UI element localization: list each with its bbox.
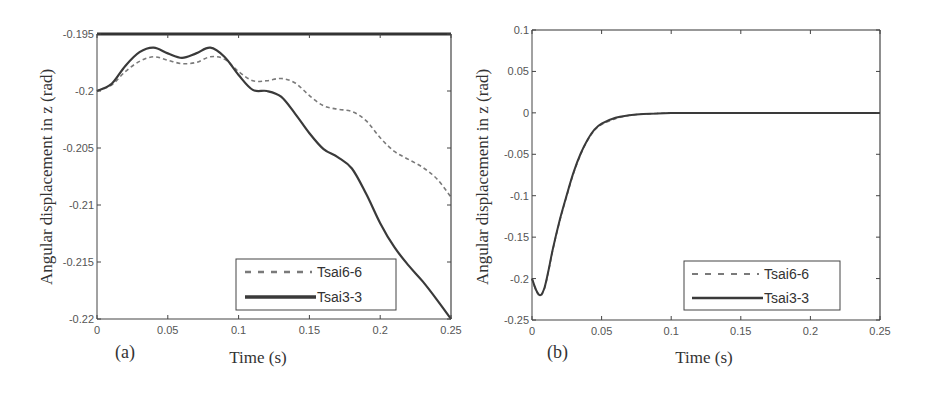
legend-b: Tsai6-6 Tsai3-3 (684, 261, 840, 310)
x-tick-label: 0.25 (869, 325, 890, 337)
y-tick-label: -0.215 (63, 256, 94, 268)
y-tick-label: -0.1 (510, 190, 529, 202)
legend-label-tsai33: Tsai3-3 (317, 289, 362, 305)
legend-a: Tsai6-6 Tsai3-3 (236, 259, 396, 310)
x-tick-label: 0.1 (231, 324, 246, 336)
figure: 00.050.10.150.20.25-0.195-0.2-0.205-0.21… (0, 0, 931, 393)
legend-label-tsai66: Tsai6-6 (317, 264, 362, 280)
x-tick-label: 0 (94, 324, 100, 336)
y-tick-label: -0.21 (69, 199, 94, 211)
chart-panel-a: 00.050.10.150.20.25-0.195-0.2-0.205-0.21… (37, 28, 462, 367)
panel-label-b: (b) (547, 342, 568, 363)
y-tick-label: -0.15 (504, 231, 529, 243)
x-tick-label: 0.2 (373, 324, 388, 336)
y-tick-label: -0.22 (69, 313, 94, 325)
x-tick-label: 0.1 (664, 325, 679, 337)
legend-label-tsai33: Tsai3-3 (764, 290, 809, 306)
y-tick-label: 0.1 (514, 24, 529, 36)
panel-label-a: (a) (115, 342, 135, 363)
chart-panel-b: 00.050.10.150.20.250.10.050-0.05-0.1-0.1… (473, 24, 891, 367)
x-tick-label: 0.15 (299, 324, 320, 336)
x-tick-label: 0.15 (730, 325, 751, 337)
x-tick-label: 0.05 (157, 324, 178, 336)
y-tick-label: -0.2 (510, 273, 529, 285)
y-axis-title-b: Angular displacement in z (rad) (473, 69, 492, 285)
y-tick-label: -0.205 (63, 142, 94, 154)
y-tick-label: -0.05 (504, 148, 529, 160)
y-axis-title-a: Angular displacement in z (rad) (37, 69, 56, 285)
x-axis-title-a: Time (s) (229, 348, 286, 367)
x-tick-label: 0.25 (440, 324, 461, 336)
y-tick-label: 0 (523, 107, 529, 119)
y-tick-label: -0.2 (75, 85, 94, 97)
y-tick-label: -0.25 (504, 314, 529, 326)
y-tick-label: 0.05 (508, 65, 529, 77)
x-axis-title-b: Time (s) (675, 348, 732, 367)
y-tick-label: -0.195 (63, 28, 94, 40)
series-line-tsai66 (97, 57, 451, 197)
legend-label-tsai66: Tsai6-6 (764, 266, 809, 282)
x-tick-label: 0.05 (591, 325, 612, 337)
x-tick-label: 0.2 (803, 325, 818, 337)
x-tick-label: 0 (529, 325, 535, 337)
